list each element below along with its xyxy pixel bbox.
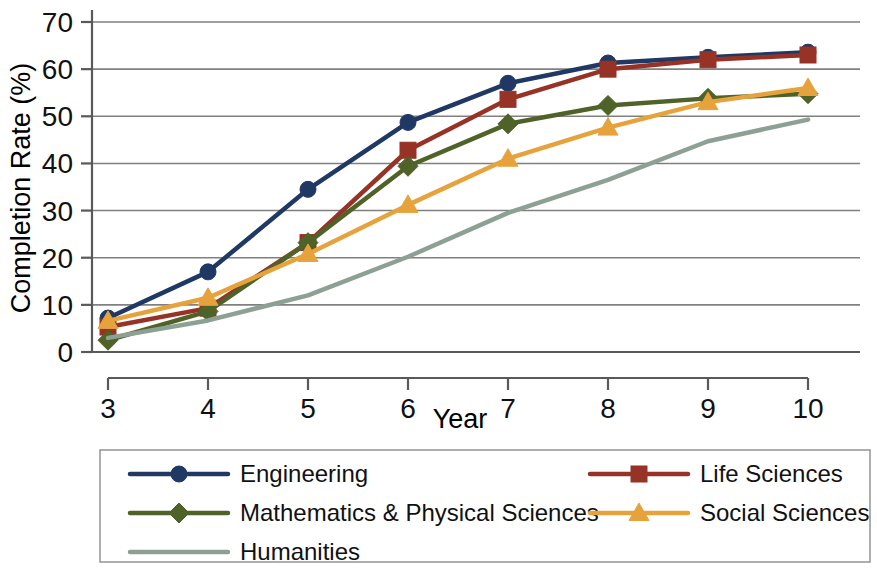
y-tick-label: 10 (42, 290, 73, 321)
legend-label: Social Sciences (700, 499, 869, 526)
x-tick-label: 9 (700, 393, 716, 424)
completion-rate-line-chart: 010203040506070 345678910 Completion Rat… (0, 0, 877, 572)
data-point-marker (800, 47, 816, 63)
legend-label: Mathematics & Physical Sciences (240, 499, 599, 526)
y-tick-label: 0 (57, 337, 73, 368)
data-point-marker (500, 75, 516, 91)
data-point-marker (300, 181, 316, 197)
y-tick-label: 30 (42, 196, 73, 227)
data-point-marker (200, 264, 216, 280)
x-tick-label: 8 (600, 393, 616, 424)
y-tick-label: 50 (42, 101, 73, 132)
x-tick-label: 4 (200, 393, 216, 424)
y-tick-label: 40 (42, 148, 73, 179)
data-point-marker (500, 91, 516, 107)
x-tick-label: 3 (100, 393, 116, 424)
legend-label: Humanities (240, 538, 360, 565)
x-axis-title: Year (433, 404, 488, 434)
legend-label: Engineering (240, 460, 368, 487)
x-tick-label: 5 (300, 393, 316, 424)
x-tick-label: 6 (400, 393, 416, 424)
y-tick-label: 20 (42, 243, 73, 274)
y-axis-title: Completion Rate (%) (6, 63, 36, 314)
data-point-marker (700, 52, 716, 68)
legend-label: Life Sciences (700, 460, 843, 487)
data-point-marker (400, 114, 416, 130)
legend-swatch-marker (631, 466, 647, 482)
x-tick-label: 10 (792, 393, 823, 424)
y-tick-label: 70 (42, 7, 73, 38)
y-tick-label: 60 (42, 54, 73, 85)
legend-swatch-marker (171, 466, 187, 482)
chart-canvas: 010203040506070 345678910 Completion Rat… (0, 0, 877, 572)
data-point-marker (600, 61, 616, 77)
x-tick-label: 7 (500, 393, 516, 424)
